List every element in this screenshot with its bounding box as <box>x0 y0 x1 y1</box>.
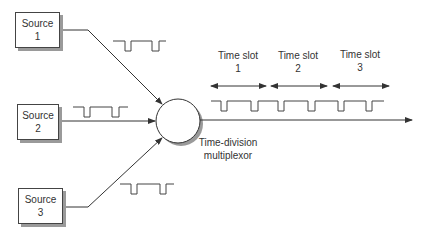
time-slot-2-number: 2 <box>270 62 326 75</box>
time-slot-3-text: Time slot <box>332 48 388 61</box>
source-3-waveform <box>120 184 174 194</box>
source-2-label: Source <box>18 109 58 122</box>
time-slot-1-label: Time slot 1 <box>210 49 266 75</box>
source-3-box: Source 3 <box>18 188 63 224</box>
source-3-link-arrow <box>64 138 162 207</box>
source-2-box: Source 2 <box>17 104 59 140</box>
multiplexed-waveform <box>211 101 384 111</box>
source-1-waveform <box>113 41 166 51</box>
source-1-box: Source 1 <box>15 12 60 48</box>
tdm-diagram <box>0 0 430 236</box>
time-slot-1-text: Time slot <box>210 49 266 62</box>
source-3-label: Source <box>19 193 62 206</box>
time-slot-1-number: 1 <box>210 62 266 75</box>
source-3-number: 3 <box>19 206 62 219</box>
source-1-number: 1 <box>16 30 59 43</box>
source-1-label: Source <box>16 17 59 30</box>
source-2-number: 2 <box>18 122 58 135</box>
source-2-waveform <box>73 107 128 117</box>
time-slot-3-label: Time slot 3 <box>332 48 388 74</box>
multiplexor-caption-line2: multiplexor <box>192 149 264 162</box>
multiplexor-caption: Time-division multiplexor <box>192 136 264 162</box>
time-slot-3-number: 3 <box>332 61 388 74</box>
time-slot-2-text: Time slot <box>270 49 326 62</box>
multiplexor-caption-line1: Time-division <box>192 136 264 149</box>
time-slot-2-label: Time slot 2 <box>270 49 326 75</box>
